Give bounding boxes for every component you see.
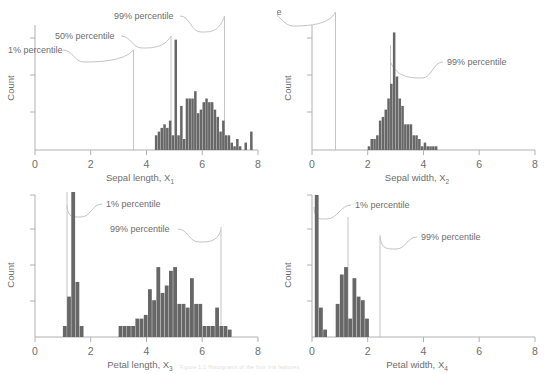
x-axis-title: Petal length, X3 xyxy=(107,359,173,372)
xtick-2: 2 xyxy=(88,345,94,357)
leader-1pct xyxy=(81,204,102,217)
leader-1pct-b xyxy=(84,50,134,62)
y-ticks xyxy=(30,195,35,301)
xtick-2: 2 xyxy=(365,158,371,170)
x-ticks xyxy=(312,337,535,342)
y-axis-title: Count xyxy=(282,75,293,101)
annotation-1pct: 1% percentile xyxy=(106,199,161,209)
leader-50pct xyxy=(121,36,142,48)
leader-99pct-b xyxy=(201,16,225,32)
xtick-6: 6 xyxy=(199,345,205,357)
xtick-6: 6 xyxy=(476,158,482,170)
xtick-0: 0 xyxy=(32,345,38,357)
xtick-4: 4 xyxy=(421,158,427,170)
xtick-6: 6 xyxy=(199,158,205,170)
y-ticks xyxy=(307,38,312,112)
histogram-bars xyxy=(368,32,438,150)
annotation-1pct: 1% percentile xyxy=(277,7,282,17)
y-ticks xyxy=(307,195,312,301)
x-ticks xyxy=(35,337,258,342)
xtick-8: 8 xyxy=(255,345,261,357)
histogram-bars xyxy=(155,40,253,150)
xtick-4: 4 xyxy=(144,158,150,170)
xtick-8: 8 xyxy=(532,345,538,357)
annotation-99pct: 99% percentile xyxy=(447,57,507,67)
panel-petal-length: 1% percentile 99% percentile 0 2 4 6 8 P… xyxy=(0,187,278,374)
xtick-6: 6 xyxy=(476,345,482,357)
x-ticks xyxy=(35,150,258,155)
leader-99pct-b xyxy=(380,237,396,249)
leader-99pct xyxy=(180,16,201,32)
xtick-8: 8 xyxy=(532,158,538,170)
panel-petal-width: 1% percentile 99% percentile 0 2 4 6 8 P… xyxy=(277,187,555,374)
leader-1pct xyxy=(327,205,351,219)
y-axis-title: Count xyxy=(5,262,16,288)
panel-sepal-width: 1% percentile 99% percentile 0 2 4 6 8 S… xyxy=(277,0,555,187)
panel-sepal-length: 1% percentile 50% percentile 99% percent… xyxy=(0,0,278,187)
annotation-1pct: 1% percentile xyxy=(355,200,410,210)
leader-99pct xyxy=(396,237,417,249)
annotation-99pct: 99% percentile xyxy=(110,224,170,234)
annotation-50pct: 50% percentile xyxy=(55,31,115,41)
leader-99pct-b xyxy=(199,230,221,242)
leader-50pct-b xyxy=(142,36,171,48)
xtick-0: 0 xyxy=(32,158,38,170)
xtick-2: 2 xyxy=(365,345,371,357)
histogram-bars xyxy=(315,195,369,337)
x-axis-title: Sepal length, X1 xyxy=(106,172,174,185)
y-axis-title: Count xyxy=(282,262,293,288)
leader-1pct-b xyxy=(293,12,336,26)
xtick-2: 2 xyxy=(88,158,94,170)
leader-1pct xyxy=(63,50,84,62)
figure-caption-faint: Figure 1.2 Histograms of the four Iris f… xyxy=(180,364,510,374)
xtick-8: 8 xyxy=(255,158,261,170)
y-axis-title: Count xyxy=(5,75,16,101)
xtick-4: 4 xyxy=(144,345,150,357)
xtick-4: 4 xyxy=(421,345,427,357)
xtick-0: 0 xyxy=(309,345,315,357)
annotation-1pct: 1% percentile xyxy=(8,45,63,55)
leader-99pct xyxy=(422,62,443,78)
xtick-0: 0 xyxy=(309,158,315,170)
annotation-99pct: 99% percentile xyxy=(114,11,174,21)
leader-99pct xyxy=(178,229,199,242)
annotation-99pct: 99% percentile xyxy=(421,232,481,242)
iris-histogram-figure: 1% percentile 50% percentile 99% percent… xyxy=(0,0,555,374)
x-axis-title: Sepal width, X2 xyxy=(385,172,450,185)
x-ticks xyxy=(312,150,535,155)
